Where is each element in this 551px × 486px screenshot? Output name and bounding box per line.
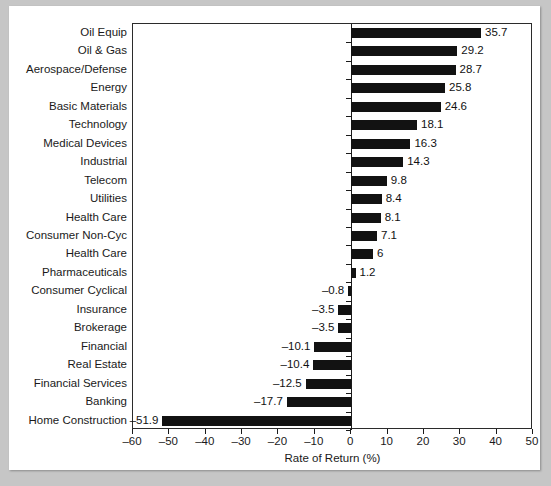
x-axis-tick-label: –50 bbox=[159, 435, 178, 447]
bar-value-label: 24.6 bbox=[445, 97, 467, 115]
x-axis-tick bbox=[168, 429, 169, 434]
bar-row: –51.9 bbox=[133, 412, 531, 430]
bar bbox=[351, 102, 440, 112]
bar-row: 35.7 bbox=[133, 24, 531, 42]
x-axis-tick bbox=[496, 429, 497, 434]
bar-value-label: –3.5 bbox=[312, 318, 334, 336]
category-label: Consumer Cyclical bbox=[9, 281, 127, 299]
category-label: Home Construction bbox=[9, 411, 127, 429]
chart-card: Oil EquipOil & GasAerospace/DefenseEnerg… bbox=[9, 6, 540, 470]
category-label: Banking bbox=[9, 392, 127, 410]
bar bbox=[348, 286, 351, 296]
bar-value-label: –12.5 bbox=[273, 374, 302, 392]
bar bbox=[351, 120, 417, 130]
bar-row: 25.8 bbox=[133, 79, 531, 97]
category-label: Health Care bbox=[9, 208, 127, 226]
category-label: Insurance bbox=[9, 300, 127, 318]
bar bbox=[351, 249, 373, 259]
bar bbox=[162, 416, 351, 426]
bar-value-label: 7.1 bbox=[381, 226, 397, 244]
bar-row: 24.6 bbox=[133, 98, 531, 116]
bar bbox=[351, 268, 355, 278]
bar bbox=[351, 176, 387, 186]
x-axis-tick-label: 10 bbox=[380, 435, 393, 447]
bar-row: 14.3 bbox=[133, 153, 531, 171]
bar-value-label: 18.1 bbox=[421, 115, 443, 133]
bar bbox=[351, 46, 457, 56]
x-axis-tick-label: 0 bbox=[347, 435, 353, 447]
category-label: Energy bbox=[9, 78, 127, 96]
x-axis-title: Rate of Return (%) bbox=[132, 452, 533, 464]
bar-row: –0.8 bbox=[133, 282, 531, 300]
bar bbox=[351, 231, 377, 241]
bar-row: 8.4 bbox=[133, 190, 531, 208]
category-label: Health Care bbox=[9, 244, 127, 262]
bar-row: –17.7 bbox=[133, 393, 531, 411]
x-axis-tick-label: 50 bbox=[526, 435, 539, 447]
bar-value-label: –0.8 bbox=[322, 281, 344, 299]
category-label: Financial Services bbox=[9, 374, 127, 392]
x-axis-tick bbox=[277, 429, 278, 434]
bar-value-label: 25.8 bbox=[449, 78, 471, 96]
x-axis-tick-label: –10 bbox=[304, 435, 323, 447]
category-label: Basic Materials bbox=[9, 97, 127, 115]
bar-value-label: –10.1 bbox=[282, 337, 311, 355]
x-axis-tick bbox=[314, 429, 315, 434]
category-label: Oil & Gas bbox=[9, 41, 127, 59]
plot-inner: 35.729.228.725.824.618.116.314.39.88.48.… bbox=[133, 24, 531, 428]
bar bbox=[351, 83, 445, 93]
x-axis-tick bbox=[387, 429, 388, 434]
bar-value-label: 8.1 bbox=[385, 208, 401, 226]
category-label: Financial bbox=[9, 337, 127, 355]
chart-page: Oil EquipOil & GasAerospace/DefenseEnerg… bbox=[0, 0, 551, 486]
bar bbox=[287, 397, 351, 407]
x-axis-tick-label: 40 bbox=[489, 435, 502, 447]
category-label: Industrial bbox=[9, 152, 127, 170]
bar-row: 6 bbox=[133, 245, 531, 263]
bar bbox=[313, 360, 351, 370]
bar-row: –10.4 bbox=[133, 356, 531, 374]
bar-row: 28.7 bbox=[133, 61, 531, 79]
bar-row: –3.5 bbox=[133, 301, 531, 319]
x-axis-tick-label: –20 bbox=[268, 435, 287, 447]
bar-value-label: 29.2 bbox=[461, 41, 483, 59]
category-label: Technology bbox=[9, 115, 127, 133]
bar-row: 1.2 bbox=[133, 264, 531, 282]
x-axis-tick-label: –30 bbox=[231, 435, 250, 447]
bar bbox=[351, 194, 382, 204]
category-label: Oil Equip bbox=[9, 23, 127, 41]
category-label: Real Estate bbox=[9, 355, 127, 373]
category-label: Utilities bbox=[9, 189, 127, 207]
bar bbox=[351, 65, 455, 75]
bar-value-label: 8.4 bbox=[386, 189, 402, 207]
bar bbox=[338, 305, 351, 315]
bar-row: –12.5 bbox=[133, 375, 531, 393]
bar bbox=[306, 379, 351, 389]
x-axis-tick bbox=[423, 429, 424, 434]
x-axis-tick-label: 20 bbox=[417, 435, 430, 447]
x-axis-tick bbox=[350, 429, 351, 434]
bar-value-label: –51.9 bbox=[130, 411, 159, 429]
category-axis-labels: Oil EquipOil & GasAerospace/DefenseEnerg… bbox=[9, 23, 127, 429]
bar-value-label: 9.8 bbox=[391, 171, 407, 189]
x-axis-tick bbox=[459, 429, 460, 434]
x-axis-tick bbox=[532, 429, 533, 434]
x-axis-tick-label: –40 bbox=[195, 435, 214, 447]
plot-area: 35.729.228.725.824.618.116.314.39.88.48.… bbox=[132, 23, 532, 429]
bar bbox=[351, 157, 403, 167]
bar bbox=[351, 139, 410, 149]
bar-value-label: –3.5 bbox=[312, 300, 334, 318]
bar-value-label: –17.7 bbox=[254, 392, 283, 410]
bar-value-label: 1.2 bbox=[360, 263, 376, 281]
bar-row: 8.1 bbox=[133, 209, 531, 227]
x-axis-tick bbox=[241, 429, 242, 434]
bar-row: 18.1 bbox=[133, 116, 531, 134]
bar-row: 29.2 bbox=[133, 42, 531, 60]
bar-value-label: 28.7 bbox=[460, 60, 482, 78]
category-label: Telecom bbox=[9, 171, 127, 189]
category-label: Aerospace/Defense bbox=[9, 60, 127, 78]
bar bbox=[351, 213, 380, 223]
bar bbox=[351, 28, 481, 38]
bar-value-label: 14.3 bbox=[407, 152, 429, 170]
bar bbox=[338, 323, 351, 333]
